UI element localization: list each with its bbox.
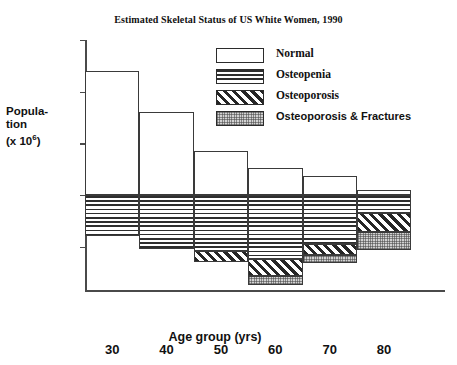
plot-area: 1510505 304050607080 bbox=[85, 40, 445, 290]
bar-segment-horizontal-lines bbox=[357, 195, 411, 213]
bar-segment-diagonal-hatch bbox=[194, 251, 248, 262]
y-axis-label-line-2: tion bbox=[6, 118, 27, 130]
bar-segment-diagonal-hatch bbox=[303, 244, 357, 255]
x-axis-label: Age group (yrs) bbox=[85, 330, 345, 344]
x-tick-label: 70 bbox=[310, 342, 350, 357]
legend-swatch-diagonal-hatch bbox=[216, 90, 264, 105]
bar-segment-diagonal-hatch bbox=[248, 259, 302, 276]
bar-segment-normal bbox=[139, 112, 193, 195]
x-tick-label: 80 bbox=[364, 342, 404, 357]
legend-swatch-horizontal-lines bbox=[216, 69, 264, 84]
y-axis-label-line-5: ) bbox=[37, 135, 41, 147]
bar-segment-horizontal-lines bbox=[85, 195, 139, 236]
y-axis-label-line-1: Popula- bbox=[6, 105, 48, 117]
x-tick-label: 50 bbox=[201, 342, 241, 357]
bar-segment-horizontal-lines bbox=[248, 195, 302, 259]
y-tick-mark bbox=[80, 247, 85, 248]
bar-segment-normal bbox=[85, 71, 139, 195]
y-axis-label: Popula- tion (x 106) bbox=[6, 105, 72, 148]
legend-label: Osteoporosis bbox=[276, 89, 339, 101]
chart-title: Estimated Skeletal Status of US White Wo… bbox=[0, 14, 457, 25]
bar-segment-horizontal-lines bbox=[303, 195, 357, 244]
x-axis-baseline bbox=[85, 290, 445, 292]
legend-label: Osteopenia bbox=[276, 68, 331, 80]
bar-segment-diagonal-hatch bbox=[357, 213, 411, 233]
chart-figure: Estimated Skeletal Status of US White Wo… bbox=[0, 0, 457, 365]
bar-segment-normal bbox=[303, 176, 357, 195]
legend-label: Normal bbox=[276, 47, 314, 59]
x-tick-label: 30 bbox=[92, 342, 132, 357]
y-axis-label-line-3: (x 10 bbox=[6, 135, 32, 147]
legend-label: Osteoporosis & Fractures bbox=[276, 110, 411, 122]
bar-segment-horizontal-lines bbox=[139, 195, 193, 249]
y-tick-mark bbox=[80, 40, 85, 41]
legend-swatch-white bbox=[216, 48, 264, 63]
bar-segment-stipple bbox=[303, 255, 357, 263]
legend-swatch-stipple bbox=[216, 111, 264, 126]
x-tick-label: 40 bbox=[147, 342, 187, 357]
bar-segment-horizontal-lines bbox=[194, 195, 248, 251]
bar-segment-normal bbox=[248, 168, 302, 195]
x-tick-label: 60 bbox=[255, 342, 295, 357]
bar-segment-stipple bbox=[248, 276, 302, 285]
bar-segment-normal bbox=[194, 151, 248, 195]
bar-segment-stipple bbox=[357, 232, 411, 250]
